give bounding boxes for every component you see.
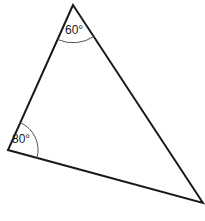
left-angle-label: 80° xyxy=(12,132,30,146)
triangle-outline xyxy=(8,5,203,203)
triangle-diagram: 60° 80° xyxy=(0,0,205,221)
top-angle-arc xyxy=(58,36,95,43)
top-angle-label: 60° xyxy=(65,23,83,37)
triangle-figure: 60° 80° xyxy=(0,0,205,221)
